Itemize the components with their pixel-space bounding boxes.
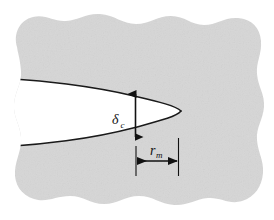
delta-c-subscript: c [121, 120, 125, 130]
delta-c-symbol: δ [112, 112, 119, 127]
crack-tip-diagram: δ c r m [0, 0, 274, 220]
figure-container: δ c r m [0, 0, 274, 220]
r-m-subscript: m [156, 150, 163, 160]
